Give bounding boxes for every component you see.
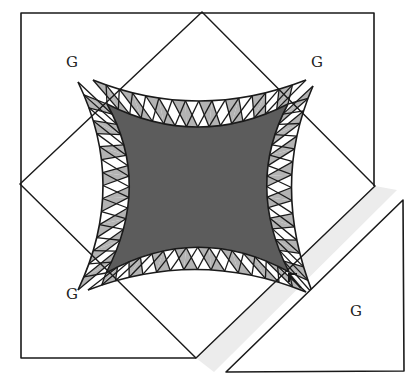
corner-label-bottom-left: G (66, 287, 78, 302)
corner-label-bottom-right: G (350, 304, 362, 319)
quilt-diagram-canvas (0, 0, 406, 375)
corner-label-top-left: G (66, 55, 78, 70)
quilt-diagram: G G G G (0, 0, 406, 375)
corner-label-top-right: G (311, 55, 323, 70)
